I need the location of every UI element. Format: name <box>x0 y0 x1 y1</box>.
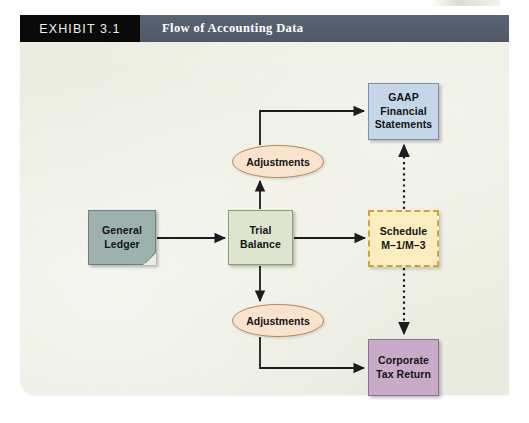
page-title: Flow of Accounting Data <box>162 21 304 36</box>
node-trial-balance-line1: Trial <box>249 224 271 238</box>
flow-diagram: General Ledger Trial Balance GAAP Financ… <box>20 42 509 395</box>
node-adjustments-top-label: Adjustments <box>246 156 310 168</box>
node-tax-return-line2: Tax Return <box>376 368 431 382</box>
node-general-ledger-line2: Ledger <box>104 238 140 252</box>
exhibit-title-bar: Flow of Accounting Data <box>140 15 509 42</box>
node-corporate-tax-return[interactable]: Corporate Tax Return <box>368 339 439 396</box>
edge-adjustments-bottom-to-tax-return <box>260 337 364 368</box>
node-schedule-line2: M–1/M–3 <box>381 239 425 253</box>
scan-artifact <box>430 0 500 6</box>
node-gaap-line1: GAAP <box>388 91 419 105</box>
node-adjustments-top[interactable]: Adjustments <box>232 145 324 178</box>
node-adjustments-bottom[interactable]: Adjustments <box>232 304 324 337</box>
node-adjustments-bottom-label: Adjustments <box>246 315 310 327</box>
node-general-ledger[interactable]: General Ledger <box>88 210 156 265</box>
exhibit-tag: EXHIBIT 3.1 <box>20 15 140 42</box>
node-gaap-line3: Statements <box>375 118 433 132</box>
exhibit-header: EXHIBIT 3.1 Flow of Accounting Data <box>20 15 509 42</box>
node-trial-balance[interactable]: Trial Balance <box>228 210 293 265</box>
node-tax-return-line1: Corporate <box>378 354 429 368</box>
node-general-ledger-line1: General <box>102 224 142 238</box>
node-gaap-line2: Financial <box>380 105 426 119</box>
node-gaap-financial-statements[interactable]: GAAP Financial Statements <box>368 83 439 140</box>
edge-adjustments-top-to-gaap <box>260 111 364 145</box>
node-schedule-line1: Schedule <box>380 225 427 239</box>
exhibit-tag-label: EXHIBIT 3.1 <box>39 22 120 36</box>
exhibit-panel: EXHIBIT 3.1 Flow of Accounting Data <box>20 15 509 395</box>
node-trial-balance-line2: Balance <box>240 238 281 252</box>
node-schedule-m1-m3[interactable]: Schedule M–1/M–3 <box>368 210 439 267</box>
